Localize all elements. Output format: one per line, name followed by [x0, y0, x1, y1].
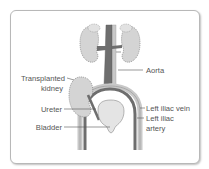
native-kidney-left — [120, 24, 140, 62]
bladder — [98, 100, 124, 133]
label-transplanted-kidney-line2: kidney — [41, 84, 63, 93]
label-aorta: Aorta — [146, 66, 165, 75]
label-ureter: Ureter — [41, 105, 63, 114]
label-left-iliac-vein: Left iliac vein — [146, 104, 190, 113]
great-vessels — [97, 25, 122, 87]
native-kidney-right — [80, 24, 100, 62]
label-bladder: Bladder — [36, 123, 63, 132]
kidney-transplant-diagram: Aorta Transplanted kidney Ureter Bladder… — [0, 0, 209, 169]
label-transplanted-kidney-line1: Transplanted — [21, 74, 65, 83]
label-left-iliac-artery-line2: artery — [146, 124, 166, 133]
label-left-iliac-artery-line1: Left iliac — [146, 114, 174, 123]
